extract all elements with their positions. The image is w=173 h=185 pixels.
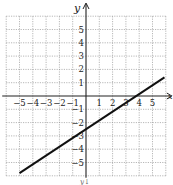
y-tick-label: −4 (71, 144, 84, 154)
x-tick-label: −4 (27, 98, 40, 108)
y-tick-label: 4 (79, 38, 84, 48)
y-tick-label: −2 (71, 118, 84, 128)
coordinate-plane: −5−4−3−2−11234554321−1−2−3−4−5 y x y↓ (0, 0, 173, 185)
x-tick-label: 4 (136, 98, 141, 108)
x-tick-label: 2 (110, 98, 115, 108)
line-series (20, 77, 165, 173)
x-tick-label: 5 (150, 98, 155, 108)
data-series (20, 77, 165, 173)
y-tick-label: 5 (79, 25, 84, 35)
y-axis-label: y (73, 2, 81, 15)
y-tick-label: 3 (79, 51, 84, 61)
bottom-axis-label: y↓ (79, 178, 90, 185)
x-tick-label: −2 (53, 98, 66, 108)
x-tick-label: 1 (97, 98, 102, 108)
y-tick-label: −5 (71, 158, 84, 168)
x-tick-label: −5 (13, 98, 26, 108)
y-tick-label: −1 (71, 104, 84, 114)
y-tick-label: 2 (79, 64, 84, 74)
x-tick-label: −3 (40, 98, 53, 108)
y-tick-label: 1 (79, 78, 84, 88)
x-axis-label: x (168, 92, 173, 101)
